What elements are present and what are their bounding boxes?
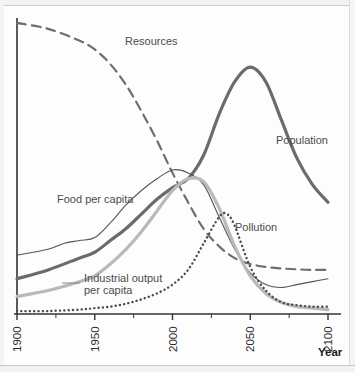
pollution-label: Pollution [235,221,277,233]
xtick-label-2000: 2000 [167,326,179,352]
industrial-label-1: Industrial output [84,272,162,284]
xtick-label-1950: 1950 [89,326,101,352]
resources-label: Resources [125,35,178,47]
series-line-resources [17,23,328,270]
x-axis-title: Year [318,346,342,358]
food-label: Food per capita [57,193,133,205]
chart-container: ResourcesPopulationFood per capitaPollut… [0,0,355,372]
xtick-label-1900: 1900 [11,326,23,352]
limits-to-growth-plot [0,0,355,372]
industrial-label-2: per capita [84,284,132,296]
population-label: Population [276,134,328,146]
xtick-label-2050: 2050 [244,326,256,352]
series-line-pollution [17,213,328,311]
series-group [17,23,328,311]
axes-group [14,18,341,320]
